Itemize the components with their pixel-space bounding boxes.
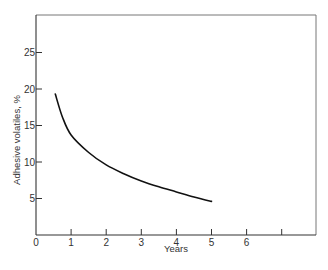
x-axis-title: Years	[164, 243, 188, 254]
x-tick-label: 3	[139, 237, 145, 248]
x-tick-label: 2	[103, 237, 109, 248]
x-tick-label: 6	[244, 237, 250, 248]
y-tick-label: 25	[24, 47, 36, 58]
x-tick-label: 1	[68, 237, 74, 248]
chart: 0123456 510152025 Years Adhesive volatil…	[0, 0, 328, 270]
x-tick-label: 0	[33, 237, 39, 248]
y-tick-label: 10	[24, 157, 36, 168]
plot-frame	[36, 15, 316, 235]
data-curve	[55, 94, 211, 201]
y-axis-title: Adhesive volatiles, %	[11, 95, 22, 185]
y-tick-label: 20	[24, 84, 36, 95]
y-tick-label: 5	[29, 193, 35, 204]
x-tick-label: 5	[209, 237, 215, 248]
y-tick-label: 15	[24, 120, 36, 131]
x-axis-ticks: 0123456	[33, 229, 281, 248]
y-axis-ticks: 510152025	[24, 47, 42, 204]
